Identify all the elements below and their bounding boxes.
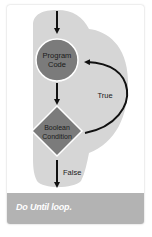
true-label: True — [97, 91, 112, 100]
program-code-label-line1: Program — [43, 51, 72, 60]
caption-band: Do Until loop. — [7, 193, 144, 224]
program-code-node: Program Code — [36, 39, 78, 81]
figure-caption: Do Until loop. — [16, 202, 72, 212]
background-blob — [33, 10, 128, 187]
program-code-label-line2: Code — [48, 60, 66, 69]
boolean-condition-label-line2: Condition — [42, 133, 72, 140]
flowchart-diagram: Program Code Boolean Condition True Fals… — [7, 5, 144, 193]
boolean-condition-label-line1: Boolean — [44, 124, 70, 131]
figure-card: Program Code Boolean Condition True Fals… — [7, 5, 144, 224]
false-label: False — [63, 168, 81, 177]
